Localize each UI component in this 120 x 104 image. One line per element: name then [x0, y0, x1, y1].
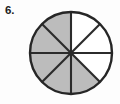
problem-number-label: 6. — [5, 4, 14, 17]
fraction-circle-figure: 6. — [0, 0, 120, 104]
pie-circle-diagram — [27, 8, 117, 100]
